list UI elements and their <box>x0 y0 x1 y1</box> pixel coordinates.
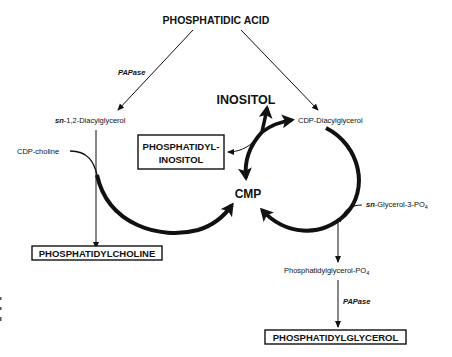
glycerol-3-po4-label: sn-Glycerol-3-PO4 <box>366 200 428 210</box>
cdp-choline-curve <box>70 151 97 175</box>
phosphatidylinositol-line1: PHOSPHATIDYL- <box>143 141 220 152</box>
edge-artifact <box>0 297 2 300</box>
phosphatidylglycerol-po4-label: Phosphatidylglycerol-PO4 <box>284 266 369 276</box>
diacylglycerol-label: sn-1,2-Diacylglycerol <box>55 116 126 125</box>
cdp-diacylglycerol-label: CDP-Diacylglycerol <box>298 116 363 125</box>
edge-artifact <box>0 317 2 321</box>
phosphatidylglycerol-label: PHOSPHATIDYLGLYCEROL <box>273 332 399 343</box>
cdp-choline-label: CDP-choline <box>17 147 59 156</box>
papase-left-label: PAPase <box>118 68 145 77</box>
phosphatidylcholine-label: PHOSPHATIDYLCHOLINE <box>39 248 155 259</box>
glycerol-curve <box>340 205 362 222</box>
cmp-label: CMP <box>235 187 262 201</box>
pathway-diagram: PHOSPHATIDIC ACID PAPase sn-1,2-Diacylgl… <box>0 0 452 357</box>
inositol-label: INOSITOL <box>217 93 276 107</box>
edge-artifact <box>0 307 2 310</box>
phosphatidylinositol-line2: INOSITOL <box>159 154 204 165</box>
cmp-release-arrow-left <box>97 175 232 233</box>
phosphatidic-acid-label: PHOSPHATIDIC ACID <box>163 14 270 26</box>
papase-right-label: PAPase <box>343 297 370 306</box>
to-cdpdag-arrow <box>262 120 292 132</box>
cmp-release-arrow-right <box>262 128 359 231</box>
cmp-release-arrow-top <box>246 132 262 178</box>
